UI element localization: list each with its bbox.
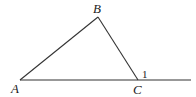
diagram-svg: B A C 1 <box>0 0 196 97</box>
segment-ab <box>20 17 98 80</box>
angle-1-label: 1 <box>142 68 148 80</box>
triangle-diagram: B A C 1 <box>0 0 196 97</box>
segment-bc <box>98 17 138 80</box>
label-c: C <box>133 82 142 97</box>
label-b: B <box>93 1 101 16</box>
label-a: A <box>10 81 19 96</box>
